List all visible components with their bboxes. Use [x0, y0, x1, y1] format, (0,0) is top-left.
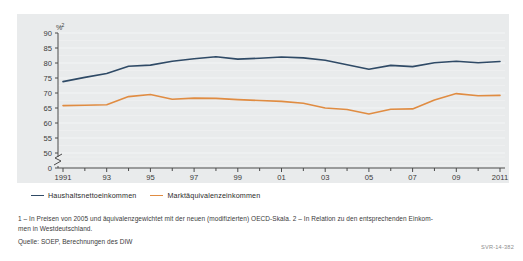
series-line-2	[63, 94, 500, 114]
svg-text:55: 55	[44, 134, 52, 143]
y-axis-unit-label: %2	[56, 22, 65, 32]
svg-text:70: 70	[44, 89, 52, 98]
footnote-line-1: 1 – In Preisen von 2005 und äquivalenzge…	[18, 214, 508, 224]
legend-swatch-series-2	[150, 195, 163, 197]
svg-text:03: 03	[321, 173, 329, 182]
svg-text:50: 50	[44, 149, 52, 158]
footnotes: 1 – In Preisen von 2005 und äquivalenzge…	[18, 214, 508, 234]
svg-text:2011: 2011	[492, 173, 508, 182]
svg-text:85: 85	[44, 44, 52, 53]
legend-item-haushaltsnettoeinkommen: Haushaltsnettoeinkommen	[31, 191, 136, 200]
svg-text:07: 07	[408, 173, 416, 182]
svg-text:65: 65	[44, 104, 52, 113]
svg-text:99: 99	[234, 173, 242, 182]
x-axis-ticks	[63, 168, 500, 172]
chart-figure: 5055606570758085900 19919395979901030507…	[0, 0, 523, 261]
x-axis-tick-labels: 19919395979901030507092011	[55, 173, 509, 182]
svg-text:75: 75	[44, 74, 52, 83]
svg-text:93: 93	[102, 173, 110, 182]
y-axis-tick-labels: 5055606570758085900	[44, 29, 52, 173]
svg-text:60: 60	[44, 119, 52, 128]
svg-text:1991: 1991	[55, 173, 72, 182]
chart-plot: 5055606570758085900 19919395979901030507…	[0, 0, 523, 190]
svg-text:80: 80	[44, 59, 52, 68]
legend-item-marktaequivalenzeinkommen: Marktäquivalenzeinkommen	[150, 191, 260, 200]
legend-swatch-series-1	[31, 195, 44, 197]
svg-text:90: 90	[44, 29, 52, 38]
legend-label-series-1: Haushaltsnettoeinkommen	[48, 191, 136, 200]
svg-text:09: 09	[452, 173, 460, 182]
svg-text:0: 0	[48, 164, 52, 173]
svg-text:97: 97	[190, 173, 198, 182]
svg-text:05: 05	[365, 173, 373, 182]
chart-legend: Haushaltsnettoeinkommen Marktäquivalenze…	[31, 191, 260, 200]
reference-code: SVR-14-382	[481, 244, 514, 250]
footnote-line-2: men in Westdeutschland.	[18, 224, 508, 234]
svg-text:2: 2	[62, 22, 65, 28]
svg-text:01: 01	[277, 173, 285, 182]
svg-text:95: 95	[146, 173, 154, 182]
legend-label-series-2: Marktäquivalenzeinkommen	[167, 191, 260, 200]
source-note: Quelle: SOEP, Berechnungen des DIW	[18, 238, 132, 245]
